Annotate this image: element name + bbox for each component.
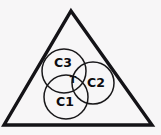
venn-triangle-diagram: C3 C2 C1 T	[0, 0, 161, 135]
circle-label-c1: C1	[56, 94, 74, 109]
intersection-label-t: T	[70, 74, 77, 85]
diagram-canvas: C3 C2 C1 T	[0, 0, 161, 135]
circle-label-c2: C2	[87, 75, 105, 90]
circle-label-c3: C3	[54, 55, 72, 70]
